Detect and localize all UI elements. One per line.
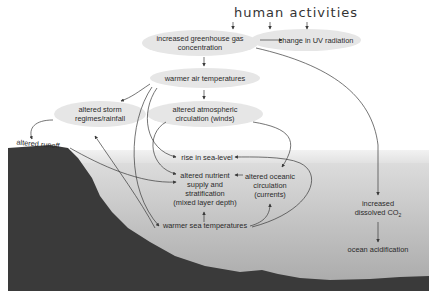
node-greenhouse-line2: concentration bbox=[156, 43, 243, 52]
arrow-storm-runoff bbox=[31, 120, 53, 139]
node-atmos-line1: altered atmospheric bbox=[173, 105, 238, 114]
node-co2: increased dissolved CO2 bbox=[355, 199, 402, 220]
node-acidification: ocean acidification bbox=[348, 245, 409, 254]
node-storm-line2: regimes/rainfall bbox=[75, 114, 125, 123]
node-sea-temp: warmer sea temperatures bbox=[163, 221, 247, 230]
climate-impact-diagram: human activities increased greenhouse ga… bbox=[0, 0, 435, 300]
node-nutrient-line3: stratification bbox=[173, 189, 236, 198]
node-uv: change in UV radiation bbox=[279, 36, 354, 45]
node-greenhouse: increased greenhouse gas concentration bbox=[156, 34, 243, 52]
node-oceanic: altered oceanic circulation (currents) bbox=[245, 172, 295, 199]
node-oceanic-line3: (currents) bbox=[245, 190, 295, 199]
node-atmos: altered atmospheric circulation (winds) bbox=[173, 105, 238, 123]
node-atmos-line2: circulation (winds) bbox=[173, 114, 238, 123]
node-nutrient-line1: altered nutrient bbox=[173, 171, 236, 180]
node-co2-line1: increased bbox=[355, 199, 402, 208]
node-storm: altered storm regimes/rainfall bbox=[75, 105, 125, 123]
node-greenhouse-line1: increased greenhouse gas bbox=[156, 34, 243, 43]
node-storm-line1: altered storm bbox=[75, 105, 125, 114]
node-sea-level: rise in sea-level bbox=[181, 153, 232, 162]
node-oceanic-line2: circulation bbox=[245, 181, 295, 190]
node-co2-line2: dissolved CO2 bbox=[355, 208, 402, 220]
title-human-activities: human activities bbox=[234, 5, 358, 20]
node-nutrient-line2: supply and bbox=[173, 180, 236, 189]
node-co2-subscript: 2 bbox=[399, 212, 402, 218]
node-air-temp: warmer air temperatures bbox=[165, 74, 246, 83]
node-oceanic-line1: altered oceanic bbox=[245, 172, 295, 181]
node-nutrient-line4: (mixed layer depth) bbox=[173, 198, 236, 207]
node-nutrient: altered nutrient supply and stratificati… bbox=[173, 171, 236, 207]
node-co2-text: dissolved CO bbox=[355, 208, 399, 217]
